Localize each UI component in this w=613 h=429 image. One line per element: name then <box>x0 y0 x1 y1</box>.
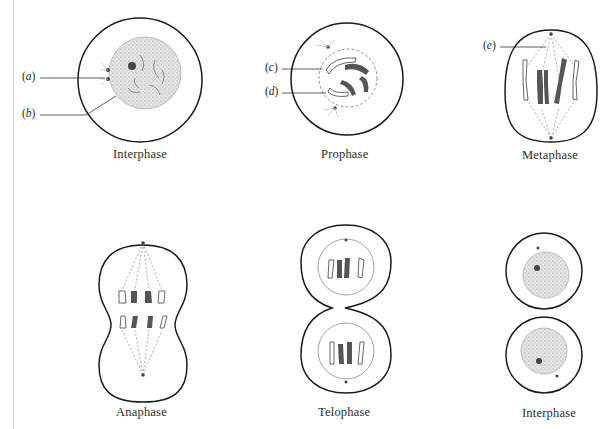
callout-c: (c) <box>265 61 278 73</box>
callout-b: (b) <box>22 107 35 119</box>
stage-label-interphase: Interphase <box>113 147 167 162</box>
stage-label-interphase-2: Interphase <box>522 406 576 421</box>
callout-d: (d) <box>265 85 278 97</box>
metaphase-cell <box>500 30 597 142</box>
telophase-cell <box>301 225 391 393</box>
mitosis-diagram <box>0 0 613 429</box>
stage-label-metaphase: Metaphase <box>522 148 578 163</box>
anaphase-cell <box>99 241 187 402</box>
stage-label-telophase: Telophase <box>318 405 370 420</box>
callout-a: (a) <box>22 70 35 82</box>
prophase-cell <box>282 23 403 135</box>
interphase-cell-1 <box>40 18 202 142</box>
callout-e: (e) <box>483 39 496 51</box>
stage-label-prophase: Prophase <box>321 147 368 162</box>
stage-label-anaphase: Anaphase <box>116 405 167 420</box>
interphase-cell-2 <box>506 233 582 393</box>
